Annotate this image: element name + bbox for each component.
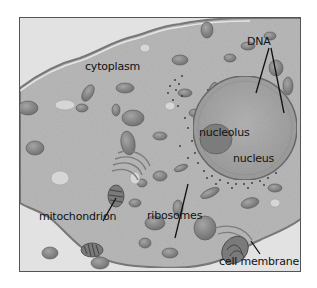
mitochondrion-shape bbox=[108, 185, 124, 207]
label-dna: DNA bbox=[247, 35, 271, 48]
label-cell-membrane: cell membrane bbox=[219, 255, 299, 268]
label-cytoplasm: cytoplasm bbox=[85, 60, 140, 73]
cell-illustration bbox=[20, 18, 301, 272]
label-nucleus: nucleus bbox=[233, 152, 274, 165]
label-mitochondrion: mitochondrion bbox=[39, 210, 116, 223]
label-nucleolus: nucleolus bbox=[199, 126, 250, 139]
label-ribosomes: ribosomes bbox=[147, 209, 202, 222]
diagram-frame: cytoplasm DNA nucleolus nucleus mitochon… bbox=[19, 17, 301, 272]
